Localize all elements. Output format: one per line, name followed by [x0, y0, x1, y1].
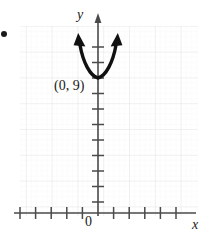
vertex-point-label: (0, 9)	[54, 79, 84, 93]
x-axis-label: x	[192, 218, 198, 232]
y-axis-label: y	[77, 8, 83, 22]
figure-container: y x 0 (0, 9)	[0, 0, 206, 242]
grid-background	[20, 26, 198, 216]
origin-label: 0	[85, 215, 92, 229]
coordinate-plane-plot	[0, 0, 206, 242]
